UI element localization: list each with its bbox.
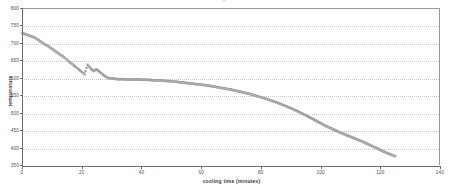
y-tick-mark [20,130,22,131]
y-tick-mark [20,113,22,114]
y-tick-mark [20,95,22,96]
y-tick-mark [20,25,22,26]
x-tick-mark [22,167,23,169]
y-axis-line [22,8,23,167]
y-axis-title: temperature [7,61,13,121]
x-tick-label: 120 [376,170,384,175]
y-tick-label: 750 [11,23,19,28]
x-axis-title: cooling time (minutes) [22,178,441,184]
x-tick-mark [201,167,202,169]
y-tick-mark [20,148,22,149]
y-tick-mark [20,165,22,166]
y-tick-label: 450 [11,128,19,133]
x-tick-mark [321,167,322,169]
x-tick-label: 0 [21,170,24,175]
x-tick-mark [380,167,381,169]
x-tick-mark [141,167,142,169]
x-axis-line [22,166,441,167]
y-tick-mark [20,8,22,9]
x-tick-label: 80 [258,170,264,175]
y-tick-mark [20,43,22,44]
y-tick-label: 400 [11,145,19,150]
x-tick-label: 140 [436,170,444,175]
x-tick-mark [440,167,441,169]
chart-title: cooling curve [0,0,449,1]
y-tick-mark [20,60,22,61]
x-tick-label: 60 [198,170,204,175]
x-tick-label: 40 [139,170,145,175]
x-tick-label: 100 [316,170,324,175]
y-tick-mark [20,78,22,79]
y-tick-label: 350 [11,163,19,168]
y-tick-label: 700 [11,40,19,45]
y-tick-label: 800 [11,6,19,11]
x-tick-mark [261,167,262,169]
data-series-cooling-curve [22,9,440,166]
plot-area [22,8,440,165]
cooling-curve-chart: cooling curve 35040045050055060065070075… [0,0,449,195]
x-tick-mark [82,167,83,169]
x-tick-label: 20 [79,170,85,175]
